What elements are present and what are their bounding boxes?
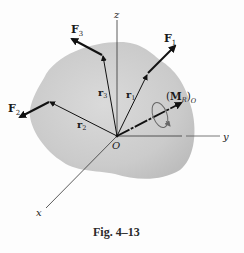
figure-canvas: z y x O F1 F2 F3 r1 r2 r3 (MR)O Fig. 4–1… xyxy=(0,0,244,253)
f2-label: F2 xyxy=(8,102,20,117)
figure-caption: Fig. 4–13 xyxy=(93,225,140,239)
x-axis-label: x xyxy=(36,207,42,218)
origin-label: O xyxy=(112,140,120,151)
y-axis-label: y xyxy=(222,131,229,142)
f3-label: F3 xyxy=(71,23,83,38)
figure-svg: z y x O F1 F2 F3 r1 r2 r3 (MR)O Fig. 4–1… xyxy=(0,0,244,253)
z-axis-label: z xyxy=(113,9,120,20)
f1-label: F1 xyxy=(164,32,176,47)
origin-point xyxy=(116,135,119,138)
